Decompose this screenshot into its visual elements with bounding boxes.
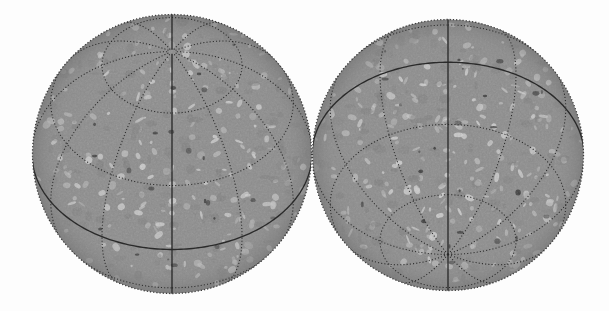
left-hemisphere-panel [24, 6, 320, 302]
solar-hemisphere-figure [0, 0, 609, 311]
right-hemisphere-panel [304, 11, 592, 299]
